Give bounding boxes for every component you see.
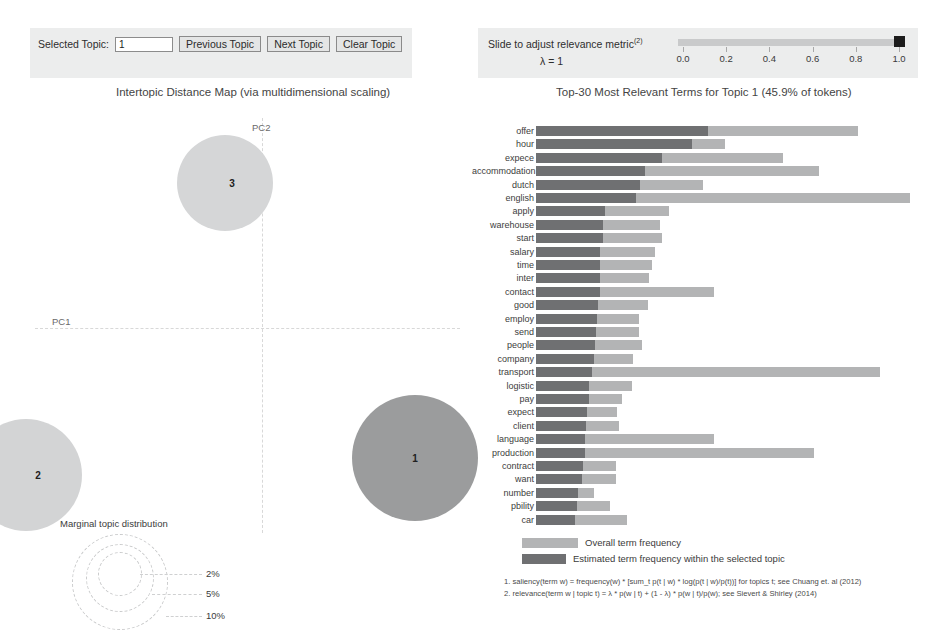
bar-topic-frequency[interactable]	[536, 340, 595, 350]
term-row[interactable]: employ	[470, 313, 940, 325]
bar-topic-frequency[interactable]	[536, 206, 605, 216]
bar-topic-frequency[interactable]	[536, 126, 708, 136]
term-row[interactable]: language	[470, 433, 940, 445]
lambda-slider-handle[interactable]	[894, 36, 905, 47]
bar-topic-frequency[interactable]	[536, 287, 600, 297]
bar-topic-frequency[interactable]	[536, 139, 692, 149]
bar-overall-frequency[interactable]	[536, 340, 642, 350]
bar-topic-frequency[interactable]	[536, 381, 589, 391]
lambda-slider-track[interactable]	[678, 39, 904, 46]
bar-overall-frequency[interactable]	[536, 448, 814, 458]
bar-topic-frequency[interactable]	[536, 394, 589, 404]
term-row[interactable]: hour	[470, 138, 940, 150]
term-row[interactable]: accommodation	[470, 165, 940, 177]
term-row[interactable]: salary	[470, 246, 940, 258]
next-topic-button[interactable]: Next Topic	[267, 36, 330, 52]
bar-topic-frequency[interactable]	[536, 407, 587, 417]
bar-overall-frequency[interactable]	[536, 314, 639, 324]
bar-overall-frequency[interactable]	[536, 260, 652, 270]
bar-overall-frequency[interactable]	[536, 233, 662, 243]
bar-overall-frequency[interactable]	[536, 434, 714, 444]
bar-overall-frequency[interactable]	[536, 421, 619, 431]
bar-topic-frequency[interactable]	[536, 367, 592, 377]
lambda-slider[interactable]: 0.00.20.40.60.81.0	[678, 36, 904, 70]
term-row[interactable]: transport	[470, 366, 940, 378]
bar-topic-frequency[interactable]	[536, 501, 577, 511]
term-row[interactable]: offer	[470, 125, 940, 137]
bar-topic-frequency[interactable]	[536, 488, 578, 498]
bar-topic-frequency[interactable]	[536, 461, 583, 471]
bar-overall-frequency[interactable]	[536, 287, 714, 297]
topic-bubble-2[interactable]: 2	[0, 419, 82, 531]
term-row[interactable]: production	[470, 447, 940, 459]
bar-topic-frequency[interactable]	[536, 247, 600, 257]
bar-overall-frequency[interactable]	[536, 501, 610, 511]
bar-overall-frequency[interactable]	[536, 166, 819, 176]
bar-topic-frequency[interactable]	[536, 474, 582, 484]
previous-topic-button[interactable]: Previous Topic	[179, 36, 261, 52]
term-row[interactable]: client	[470, 420, 940, 432]
bar-overall-frequency[interactable]	[536, 220, 660, 230]
bar-topic-frequency[interactable]	[536, 448, 585, 458]
bar-overall-frequency[interactable]	[536, 381, 632, 391]
bar-topic-frequency[interactable]	[536, 515, 575, 525]
bar-overall-frequency[interactable]	[536, 515, 627, 525]
bar-overall-frequency[interactable]	[536, 407, 617, 417]
selected-topic-input[interactable]	[115, 37, 173, 52]
bar-topic-frequency[interactable]	[536, 180, 640, 190]
term-row[interactable]: people	[470, 339, 940, 351]
term-row[interactable]: want	[470, 473, 940, 485]
term-row[interactable]: pay	[470, 393, 940, 405]
clear-topic-button[interactable]: Clear Topic	[336, 36, 402, 52]
bar-topic-frequency[interactable]	[536, 354, 594, 364]
bar-topic-frequency[interactable]	[536, 421, 586, 431]
term-row[interactable]: number	[470, 487, 940, 499]
bar-overall-frequency[interactable]	[536, 300, 648, 310]
term-row[interactable]: company	[470, 353, 940, 365]
bar-overall-frequency[interactable]	[536, 180, 703, 190]
term-row[interactable]: english	[470, 192, 940, 204]
bar-topic-frequency[interactable]	[536, 193, 636, 203]
term-row[interactable]: expece	[470, 152, 940, 164]
bar-topic-frequency[interactable]	[536, 233, 603, 243]
bar-overall-frequency[interactable]	[536, 354, 633, 364]
term-row[interactable]: contract	[470, 460, 940, 472]
bar-overall-frequency[interactable]	[536, 139, 725, 149]
bar-overall-frequency[interactable]	[536, 488, 594, 498]
bar-overall-frequency[interactable]	[536, 247, 655, 257]
bar-topic-frequency[interactable]	[536, 220, 603, 230]
bar-overall-frequency[interactable]	[536, 153, 783, 163]
term-row[interactable]: logistic	[470, 380, 940, 392]
term-row[interactable]: time	[470, 259, 940, 271]
term-row[interactable]: expect	[470, 406, 940, 418]
bar-topic-frequency[interactable]	[536, 327, 596, 337]
bar-topic-frequency[interactable]	[536, 166, 645, 176]
term-row[interactable]: dutch	[470, 179, 940, 191]
term-row[interactable]: good	[470, 299, 940, 311]
bar-overall-frequency[interactable]	[536, 474, 616, 484]
bar-topic-frequency[interactable]	[536, 314, 597, 324]
bar-overall-frequency[interactable]	[536, 206, 669, 216]
bar-overall-frequency[interactable]	[536, 394, 622, 404]
bar-topic-frequency[interactable]	[536, 273, 600, 283]
bar-overall-frequency[interactable]	[536, 461, 616, 471]
bar-overall-frequency[interactable]	[536, 367, 880, 377]
topic-bubble-3[interactable]: 3	[177, 135, 273, 231]
term-row[interactable]: pbility	[470, 500, 940, 512]
term-row[interactable]: warehouse	[470, 219, 940, 231]
term-row[interactable]: send	[470, 326, 940, 338]
term-row[interactable]: car	[470, 514, 940, 526]
term-row[interactable]: contact	[470, 286, 940, 298]
topic-bubble-1[interactable]: 1	[352, 395, 478, 521]
term-row[interactable]: inter	[470, 272, 940, 284]
bar-topic-frequency[interactable]	[536, 434, 585, 444]
bar-topic-frequency[interactable]	[536, 300, 598, 310]
bar-overall-frequency[interactable]	[536, 327, 639, 337]
bar-overall-frequency[interactable]	[536, 193, 910, 203]
term-row[interactable]: apply	[470, 205, 940, 217]
bar-overall-frequency[interactable]	[536, 126, 858, 136]
bar-overall-frequency[interactable]	[536, 273, 649, 283]
bar-topic-frequency[interactable]	[536, 260, 600, 270]
bar-topic-frequency[interactable]	[536, 153, 662, 163]
term-row[interactable]: start	[470, 232, 940, 244]
